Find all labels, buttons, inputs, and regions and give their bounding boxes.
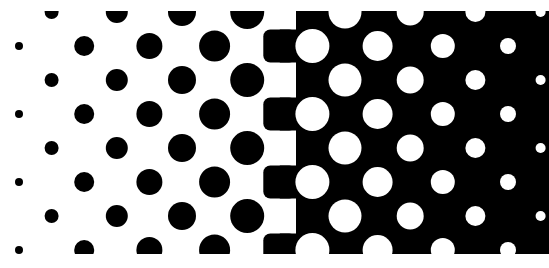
black-dot bbox=[136, 169, 162, 195]
white-dot bbox=[500, 174, 516, 190]
halftone-gradient-image bbox=[0, 0, 549, 268]
black-square-joint bbox=[280, 98, 298, 131]
black-dot bbox=[74, 104, 94, 124]
black-dot bbox=[45, 141, 59, 155]
white-dot bbox=[536, 75, 546, 85]
black-square-joint bbox=[280, 30, 298, 63]
black-dot bbox=[15, 246, 23, 254]
white-dot bbox=[397, 67, 424, 94]
black-dot bbox=[199, 99, 230, 130]
white-dot bbox=[465, 206, 485, 226]
white-dot bbox=[397, 135, 424, 162]
black-dot bbox=[230, 131, 264, 165]
black-dot bbox=[136, 33, 162, 59]
black-dot bbox=[199, 167, 230, 198]
black-dot bbox=[168, 202, 196, 230]
black-dot bbox=[168, 66, 196, 94]
white-dot bbox=[363, 167, 393, 197]
black-dot bbox=[74, 36, 94, 56]
black-dot bbox=[199, 31, 230, 62]
black-dot bbox=[45, 209, 59, 223]
white-dot bbox=[329, 200, 362, 233]
black-dot bbox=[136, 101, 162, 127]
white-dot bbox=[431, 170, 455, 194]
white-dot bbox=[329, 132, 362, 165]
white-dot bbox=[536, 143, 546, 153]
black-dot bbox=[106, 137, 128, 159]
white-dot bbox=[295, 29, 329, 63]
black-dot bbox=[230, 63, 264, 97]
black-square-joint bbox=[280, 166, 298, 199]
white-dot bbox=[295, 97, 329, 131]
black-dot bbox=[106, 69, 128, 91]
white-dot bbox=[363, 31, 393, 61]
black-dot bbox=[230, 199, 264, 233]
white-dot bbox=[329, 64, 362, 97]
white-dot bbox=[431, 34, 455, 58]
white-dot bbox=[431, 102, 455, 126]
black-dot bbox=[168, 134, 196, 162]
white-dot bbox=[295, 165, 329, 199]
black-dot bbox=[45, 73, 59, 87]
white-dot bbox=[465, 138, 485, 158]
white-dot bbox=[465, 70, 485, 90]
black-dot bbox=[15, 42, 23, 50]
black-dot bbox=[15, 178, 23, 186]
white-dot bbox=[500, 106, 516, 122]
black-dot bbox=[15, 110, 23, 118]
white-dot bbox=[500, 38, 516, 54]
black-dot bbox=[106, 205, 128, 227]
white-dot bbox=[363, 99, 393, 129]
white-dot bbox=[536, 211, 546, 221]
white-dot bbox=[397, 203, 424, 230]
black-dot bbox=[74, 172, 94, 192]
